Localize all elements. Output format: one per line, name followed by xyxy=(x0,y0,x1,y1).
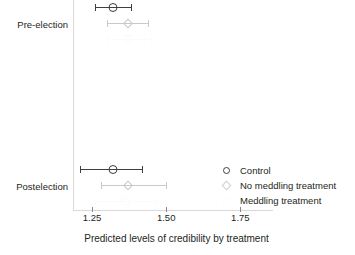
legend-item-label: No meddling treatment xyxy=(240,180,336,192)
ci-cap-upper xyxy=(166,182,167,189)
legend-item-control[interactable]: Control xyxy=(220,163,336,178)
estimate-row xyxy=(0,2,355,13)
ci-cap-lower xyxy=(101,182,102,189)
ci-cap-upper xyxy=(142,166,143,173)
x-axis-line xyxy=(73,210,273,211)
legend-item-label: Control xyxy=(240,165,271,177)
ci-cap-upper xyxy=(151,36,152,43)
estimate-row xyxy=(0,34,355,45)
estimate-marker[interactable] xyxy=(108,3,117,12)
estimate-marker[interactable] xyxy=(123,35,132,44)
circle-marker-icon xyxy=(220,163,240,178)
ci-cap-lower xyxy=(95,4,96,11)
x-axis-tick-label: 1.25 xyxy=(83,212,102,223)
legend-item-meddling-treatment[interactable]: Meddling treatment xyxy=(220,193,336,208)
legend-item-no-meddling-treatment[interactable]: No meddling treatment xyxy=(220,178,336,193)
faint-marker-icon xyxy=(220,193,240,208)
ci-cap-upper xyxy=(131,4,132,11)
x-axis-tick-label: 1.75 xyxy=(231,212,250,223)
ci-cap-lower xyxy=(107,36,108,43)
estimate-marker[interactable] xyxy=(123,181,133,191)
x-axis-title-text: Predicted levels of credibility by treat… xyxy=(84,233,269,245)
estimate-marker[interactable] xyxy=(108,165,117,174)
ci-cap-upper xyxy=(157,198,158,205)
estimate-marker[interactable] xyxy=(123,19,133,29)
legend: Control No meddling treatment Meddling t… xyxy=(220,163,336,208)
estimate-row xyxy=(0,18,355,29)
ci-cap-lower xyxy=(80,166,81,173)
ci-cap-lower xyxy=(95,198,96,205)
ci-cap-lower xyxy=(107,20,108,27)
estimate-marker[interactable] xyxy=(120,197,129,206)
confidence-interval-line xyxy=(101,185,166,186)
coefficient-plot-figure: Pre-election Postelection 1.251.501.75 C… xyxy=(0,0,355,255)
x-axis-title: Predicted levels of credibility by treat… xyxy=(0,233,355,245)
diamond-marker-icon xyxy=(220,178,240,193)
ci-cap-upper xyxy=(148,20,149,27)
x-axis-tick-label: 1.50 xyxy=(157,212,176,223)
legend-item-label: Meddling treatment xyxy=(240,195,321,207)
